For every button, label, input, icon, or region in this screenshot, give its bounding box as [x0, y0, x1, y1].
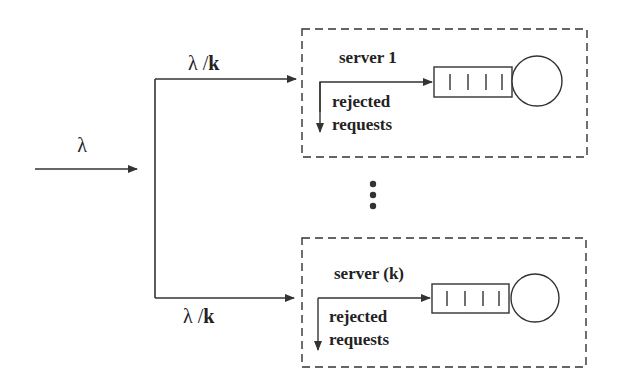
branch-label-bottom: λ /k: [183, 305, 215, 327]
server-1-group: server 1 rejected requests: [302, 29, 587, 157]
ellipsis-dots: [370, 181, 376, 209]
input-lambda-label: λ: [77, 134, 87, 156]
diagram-svg: λ λ /k λ /k server 1 rejected requests: [0, 0, 618, 386]
server-1-label: server 1: [339, 48, 397, 67]
server-k-queue: [432, 284, 509, 313]
server-k-group: server (k) rejected requests: [302, 238, 586, 367]
server-1-rejected-label-line1: rejected: [332, 92, 391, 111]
input-flow: λ: [35, 134, 137, 169]
server-k-rejected-label-line1: rejected: [329, 307, 388, 326]
server-1-processor: [512, 56, 562, 106]
splitter: λ /k λ /k: [155, 52, 296, 327]
load-balancer-diagram: λ λ /k λ /k server 1 rejected requests: [0, 0, 618, 386]
server-1-rejected-label-line2: requests: [332, 115, 393, 134]
branch-label-top: λ /k: [188, 52, 220, 74]
server-k-processor: [511, 274, 559, 322]
server-k-label: server (k): [334, 264, 404, 283]
server-1-queue: [434, 67, 512, 97]
server-k-rejected-label-line2: requests: [329, 330, 390, 349]
